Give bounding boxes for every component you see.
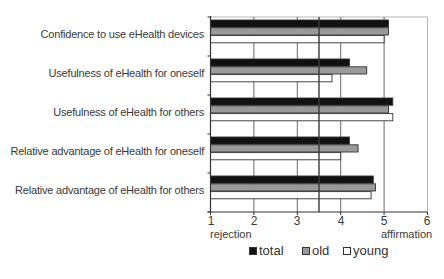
legend-label: young (353, 243, 388, 258)
bar-old (211, 184, 376, 191)
x-tick-label: 5 (381, 214, 388, 228)
legend-label: total (259, 243, 284, 258)
horizontal-bar-chart: Confidence to use eHealth devices Useful… (0, 0, 444, 279)
bar-old (211, 28, 389, 35)
legend-item-old: old (302, 243, 329, 258)
legend-label: old (312, 243, 329, 258)
bar-total (211, 98, 393, 105)
bar-total (211, 20, 389, 27)
legend-item-young: young (343, 243, 388, 258)
x-axis-left-label: rejection (210, 228, 252, 240)
bar-young (211, 114, 393, 121)
x-tick-label: 2 (251, 214, 258, 228)
category-label: Relative advantage of eHealth for others (15, 184, 204, 196)
legend-swatch-old (302, 247, 310, 255)
bar-total (211, 59, 350, 66)
x-tick-label: 1 (208, 214, 215, 228)
bar-young (211, 36, 385, 43)
x-tick-label: 4 (338, 214, 345, 228)
bar-total (211, 137, 350, 144)
bar-old (211, 145, 359, 152)
bar-old (211, 67, 367, 74)
category-label: Confidence to use eHealth devices (41, 28, 204, 40)
bar-young (211, 192, 372, 199)
bar-total (211, 176, 374, 183)
category-label: Relative advantage of eHealth for onesel… (10, 145, 204, 157)
legend-swatch-total (249, 247, 257, 255)
legend-item-total: total (249, 243, 284, 258)
bar-young (211, 75, 333, 82)
x-tick-label: 3 (294, 214, 301, 228)
legend: total old young (0, 243, 444, 261)
legend-swatch-young (343, 247, 351, 255)
x-axis-right-label: affirmation (381, 228, 432, 240)
bar-old (211, 106, 389, 113)
category-label: Usefulness of eHealth for oneself (49, 67, 204, 79)
x-tick-label: 6 (424, 214, 431, 228)
category-label: Usefulness of eHealth for others (53, 106, 204, 118)
bar-young (211, 153, 341, 160)
